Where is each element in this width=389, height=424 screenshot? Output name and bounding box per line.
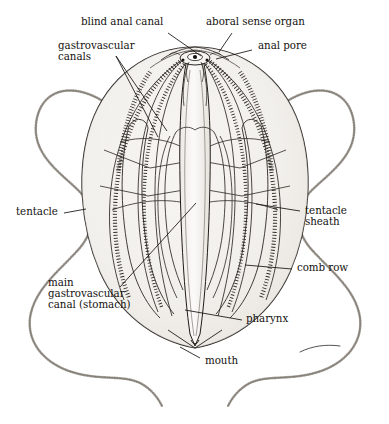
label-anal-pore: anal pore <box>258 40 307 52</box>
label-mouth: mouth <box>205 355 238 367</box>
leader-aboral-sense-organ <box>219 33 232 52</box>
label-gastrovascular-canals-line2: canals <box>58 51 91 63</box>
label-pharynx: pharynx <box>246 313 288 325</box>
label-tentacle-sheath-line2: sheath <box>305 216 340 228</box>
leader-mouth <box>180 347 200 358</box>
label-aboral-sense-organ: aboral sense organ <box>206 16 305 28</box>
statocyst-dot <box>193 55 197 59</box>
label-comb-row: comb row <box>297 262 348 274</box>
label-tentacle: tentacle <box>16 206 58 218</box>
label-blind-anal-canal: blind anal canal <box>81 16 163 28</box>
anal-pore-dot-left <box>182 59 185 62</box>
anal-pore-dot-right <box>206 59 209 62</box>
leader-tentacle <box>64 209 86 213</box>
label-main-gastrovascular-line3: canal (stomach) <box>48 299 130 311</box>
